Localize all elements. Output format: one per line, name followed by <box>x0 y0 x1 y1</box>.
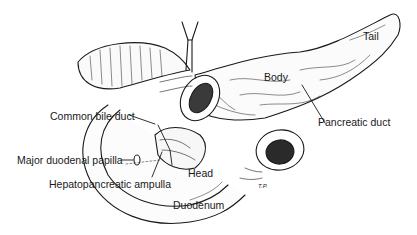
gallbladder-shape <box>78 43 190 89</box>
artist-initials: T.P. <box>258 180 268 192</box>
label-major-duodenal-papilla: Major duodenal papilla <box>17 154 123 166</box>
label-head: Head <box>188 167 213 179</box>
label-tail: Tail <box>363 30 379 42</box>
label-hepatopancreatic-ampulla: Hepatopancreatic ampulla <box>49 178 171 190</box>
papilla-shape <box>134 155 140 165</box>
label-duodenum: Duodenum <box>173 199 224 211</box>
duodenum-cut-lower <box>240 126 307 179</box>
pancreas-diagram: Tail Body Common bile duct Pancreatic du… <box>0 0 417 235</box>
label-common-bile-duct: Common bile duct <box>50 110 135 122</box>
label-body: Body <box>264 71 288 83</box>
label-pancreatic-duct: Pancreatic duct <box>318 116 390 128</box>
